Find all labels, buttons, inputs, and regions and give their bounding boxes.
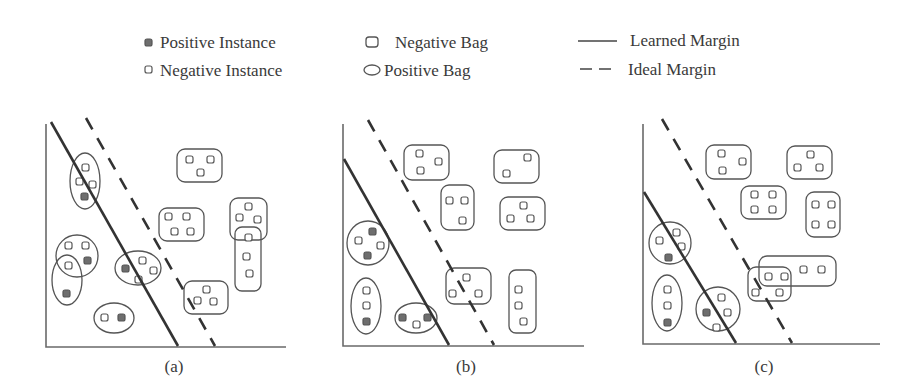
legend-positive-bag: Positive Bag bbox=[364, 61, 471, 80]
negative-bag bbox=[404, 145, 449, 180]
legend-negative-instance-label: Negative Instance bbox=[160, 61, 282, 80]
legend-learned-margin-label: Learned Margin bbox=[630, 31, 740, 50]
positive-bag bbox=[395, 303, 437, 333]
negative-bag bbox=[184, 281, 228, 314]
learned-margin-line bbox=[644, 192, 736, 343]
panel-caption: (c) bbox=[755, 357, 774, 376]
legend-learned-margin: Learned Margin bbox=[578, 31, 740, 50]
axes bbox=[343, 124, 584, 346]
positive-instance-icon bbox=[145, 39, 152, 46]
negative-bag bbox=[509, 270, 536, 333]
negative-bag bbox=[159, 208, 204, 241]
negative-bag-icon bbox=[366, 37, 378, 47]
legend-positive-bag-label: Positive Bag bbox=[384, 61, 471, 80]
negative-bag bbox=[500, 197, 545, 230]
positive-bag bbox=[115, 251, 161, 285]
legend-ideal-margin-label: Ideal Margin bbox=[628, 60, 716, 79]
negative-bag bbox=[494, 150, 539, 183]
learned-margin-line bbox=[344, 159, 449, 345]
negative-bag bbox=[446, 268, 491, 304]
positive-bag-icon bbox=[364, 65, 380, 75]
negative-bag bbox=[787, 146, 832, 179]
positive-bag bbox=[52, 255, 82, 305]
legend-positive-instance: Positive Instance bbox=[145, 33, 276, 52]
negative-bag bbox=[441, 185, 474, 230]
mil-margin-diagram: Positive Instance Negative Instance Nega… bbox=[0, 0, 924, 384]
negative-bag bbox=[235, 227, 261, 291]
legend-negative-bag: Negative Bag bbox=[366, 33, 488, 52]
negative-bag bbox=[741, 186, 786, 219]
panel-caption: (b) bbox=[456, 357, 476, 376]
negative-instance-icon bbox=[145, 66, 152, 73]
negative-bag bbox=[177, 149, 222, 182]
positive-bag bbox=[696, 287, 740, 331]
negative-bag bbox=[759, 256, 836, 286]
panel-c: (c) bbox=[643, 119, 880, 376]
panel-b: (b) bbox=[343, 120, 584, 376]
legend-positive-instance-label: Positive Instance bbox=[160, 33, 276, 52]
ideal-margin-line bbox=[86, 118, 215, 346]
legend-negative-bag-label: Negative Bag bbox=[395, 33, 488, 52]
positive-bag bbox=[94, 303, 134, 333]
legend-negative-instance: Negative Instance bbox=[145, 61, 282, 80]
negative-bag bbox=[706, 145, 751, 179]
legend: Positive Instance Negative Instance Nega… bbox=[145, 31, 740, 80]
positive-bag bbox=[351, 278, 381, 334]
panel-caption: (a) bbox=[165, 357, 184, 376]
panel-a: (a) bbox=[46, 118, 286, 376]
legend-ideal-margin: Ideal Margin bbox=[580, 60, 716, 79]
positive-bag bbox=[652, 275, 682, 331]
negative-bag bbox=[748, 267, 791, 301]
negative-bag bbox=[806, 192, 840, 237]
